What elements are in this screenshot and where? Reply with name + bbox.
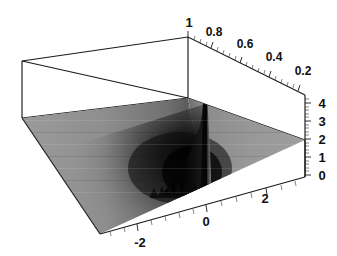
y-tick-label-1: 1 — [185, 15, 192, 30]
y-tick-label-0p8: 0.8 — [206, 25, 223, 39]
z-tick-label-1: 1 — [318, 150, 325, 165]
x-tick-label-minus2: -2 — [134, 235, 146, 250]
plot-canvas: 1 0.8 0.6 0.4 0.2 4 3 2 1 0 -2 0 2 — [0, 0, 337, 256]
x-tick-label-2: 2 — [261, 191, 268, 206]
y-tick-label-0p4: 0.4 — [266, 50, 283, 64]
z-tick-label-3: 3 — [318, 114, 325, 129]
surface-plot-figure: 1 0.8 0.6 0.4 0.2 4 3 2 1 0 -2 0 2 — [0, 0, 337, 256]
z-tick-label-4: 4 — [318, 96, 326, 111]
z-tick-label-0: 0 — [318, 168, 325, 183]
y-tick-label-0p2: 0.2 — [295, 64, 312, 78]
z-tick-label-2: 2 — [318, 132, 325, 147]
x-tick-label-0: 0 — [202, 214, 209, 229]
z-axis-tick-labels: 4 3 2 1 0 — [318, 96, 326, 183]
y-tick-label-0p6: 0.6 — [237, 37, 254, 51]
